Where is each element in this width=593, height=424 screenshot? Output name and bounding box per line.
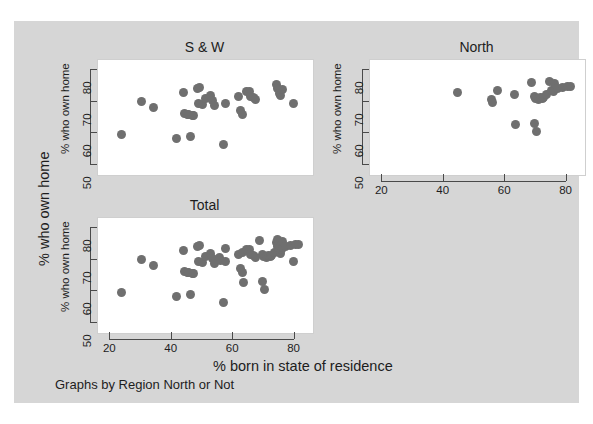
y-axis-tick-label: 80 — [81, 239, 93, 252]
data-point — [238, 110, 247, 119]
data-point — [221, 244, 230, 253]
data-point — [179, 246, 188, 255]
x-axis-tick-label: 80 — [559, 184, 572, 196]
y-axis-tick — [362, 101, 369, 102]
x-axis-tick — [566, 174, 567, 181]
panel-north-y-axis-title: % who own home — [331, 63, 343, 154]
y-axis-tick — [90, 69, 97, 70]
x-axis-tick-label: 40 — [164, 342, 177, 354]
y-axis-tick-label: 60 — [81, 303, 93, 316]
x-axis-line — [381, 181, 565, 182]
overall-x-axis-title: % born in state of residence — [213, 358, 393, 374]
y-axis-tick — [90, 322, 97, 323]
y-axis-tick-label: 70 — [81, 113, 93, 126]
data-point — [189, 111, 198, 120]
data-point — [137, 97, 146, 106]
x-axis-tick-label: 40 — [436, 184, 449, 196]
y-axis-tick-label: 70 — [81, 271, 93, 284]
scatter-panel-total — [97, 217, 314, 334]
y-axis-tick — [362, 132, 369, 133]
x-axis-tick — [504, 174, 505, 181]
panel-title-north: North — [369, 39, 584, 55]
scatter-panel-sw — [97, 59, 314, 176]
y-axis-tick-label: 70 — [353, 113, 365, 126]
x-axis-tick-label: 20 — [103, 342, 116, 354]
data-point — [117, 288, 126, 297]
y-axis-tick — [90, 290, 97, 291]
y-axis-tick — [90, 101, 97, 102]
data-point — [172, 292, 181, 301]
panel-sw-y-axis-title: % who own home — [59, 63, 71, 154]
data-point — [186, 290, 195, 299]
overall-y-axis-title: % who own home — [36, 152, 52, 266]
data-point — [289, 257, 298, 266]
data-point — [210, 101, 219, 110]
x-axis-tick-label: 60 — [226, 342, 239, 354]
data-point — [219, 140, 228, 149]
y-axis-tick-label: 50 — [353, 177, 365, 190]
data-point — [239, 278, 248, 287]
data-point — [219, 298, 228, 307]
data-point — [149, 261, 158, 270]
x-axis-tick-label: 20 — [375, 184, 388, 196]
data-point — [195, 83, 204, 92]
data-point — [189, 269, 198, 278]
x-axis-tick — [109, 332, 110, 339]
data-point — [278, 85, 287, 94]
data-point — [195, 241, 204, 250]
x-axis-line — [109, 339, 293, 340]
y-axis-tick-label: 80 — [353, 81, 365, 94]
data-point — [137, 255, 146, 264]
page-top-ghost-strip — [0, 0, 593, 14]
x-axis-tick — [171, 332, 172, 339]
data-point — [251, 95, 260, 104]
data-point — [488, 98, 497, 107]
data-point — [493, 86, 502, 95]
data-point — [511, 120, 520, 129]
y-axis-tick-label: 50 — [81, 177, 93, 190]
y-axis-tick-label: 80 — [81, 81, 93, 94]
y-axis-tick-label: 50 — [81, 335, 93, 348]
data-point — [260, 285, 269, 294]
data-point — [234, 92, 243, 101]
x-axis-tick — [294, 332, 295, 339]
y-axis-tick — [362, 69, 369, 70]
y-axis-tick — [90, 227, 97, 228]
y-axis-tick — [362, 164, 369, 165]
x-axis-tick-label: 60 — [498, 184, 511, 196]
y-axis-tick-label: 60 — [353, 145, 365, 158]
data-point — [117, 130, 126, 139]
data-point — [510, 90, 519, 99]
y-axis-tick — [90, 259, 97, 260]
panel-title-sw: S & W — [97, 39, 312, 55]
data-point — [149, 103, 158, 112]
x-axis-tick — [381, 174, 382, 181]
data-point — [532, 127, 541, 136]
data-point — [289, 99, 298, 108]
panel-total-y-axis-title: % who own home — [59, 221, 71, 312]
x-axis-tick-label: 80 — [287, 342, 300, 354]
data-point — [172, 134, 181, 143]
data-point — [221, 99, 230, 108]
data-point — [186, 132, 195, 141]
figure-note: Graphs by Region North or Not — [55, 377, 234, 392]
x-axis-tick — [232, 332, 233, 339]
figure-canvas: % who own home % born in state of reside… — [14, 21, 579, 403]
data-point — [453, 88, 462, 97]
y-axis-tick-label: 60 — [81, 145, 93, 158]
y-axis-tick — [90, 164, 97, 165]
data-point — [221, 257, 230, 266]
panel-title-total: Total — [97, 197, 312, 213]
data-point — [566, 82, 575, 91]
data-point — [294, 240, 303, 249]
data-point — [179, 88, 188, 97]
data-point — [527, 78, 536, 87]
x-axis-tick — [443, 174, 444, 181]
data-point — [238, 268, 247, 277]
data-point — [255, 236, 264, 245]
y-axis-tick — [90, 132, 97, 133]
scatter-panel-north — [369, 59, 586, 176]
screenshot-root: % who own home % born in state of reside… — [0, 0, 593, 424]
